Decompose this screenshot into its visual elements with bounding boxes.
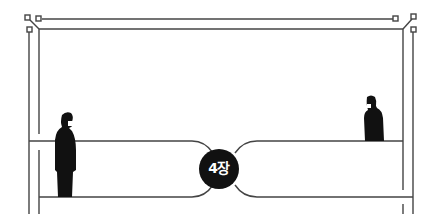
man-right-figure <box>364 96 384 142</box>
chapter-badge-label: 4장 <box>196 153 242 183</box>
chapter-opener-illustration: 4장 <box>0 0 434 214</box>
man-left-figure <box>55 112 76 197</box>
